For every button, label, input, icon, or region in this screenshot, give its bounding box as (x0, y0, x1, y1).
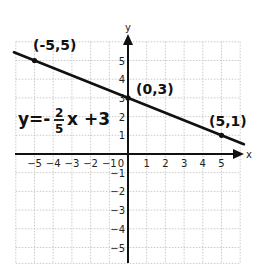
coordinate-graph: x y −5−4−3−2−1012345 54321−1−2−3−4−5 (-5… (0, 0, 260, 276)
equation-denominator: 5 (55, 122, 63, 136)
data-point (125, 95, 130, 100)
y-tick-label: 2 (119, 112, 125, 123)
point-label-c: (5,1) (209, 113, 247, 129)
x-axis-arrow-icon (233, 149, 244, 159)
y-tick-label: 4 (119, 74, 125, 85)
x-tick-label: 4 (200, 158, 206, 169)
point-label-b: (0,3) (136, 81, 174, 97)
x-tick-label: 3 (181, 158, 187, 169)
x-axis-label: x (246, 149, 252, 160)
y-tick-label: −2 (110, 186, 125, 197)
point-label-a: (-5,5) (33, 37, 76, 53)
y-tick-label: 5 (119, 56, 125, 67)
x-tick-label: −4 (46, 158, 61, 169)
equation-rhs: x +3 (67, 109, 110, 129)
x-tick-label: −5 (27, 158, 42, 169)
y-tick-label: −1 (110, 168, 125, 179)
y-tick-label: −4 (110, 224, 125, 235)
data-point (219, 133, 224, 138)
y-axis-label: y (125, 22, 131, 33)
x-tick-label: 1 (144, 158, 150, 169)
equation-lhs: y=- (18, 109, 50, 129)
x-tick-label: −2 (83, 158, 98, 169)
x-tick-label: 2 (162, 158, 168, 169)
y-tick-label: −5 (110, 243, 125, 254)
equation: y=- 2 5 x +3 (18, 106, 110, 136)
x-tick-label: 5 (218, 158, 224, 169)
x-tick-label: −3 (65, 158, 80, 169)
axes: x y (15, 22, 252, 263)
y-tick-label: 1 (119, 130, 125, 141)
y-tick-label: −3 (110, 205, 125, 216)
x-tick-labels: −5−4−3−2−1012345 (27, 158, 225, 169)
equation-numerator: 2 (55, 106, 63, 120)
data-point (32, 58, 37, 63)
y-axis-arrow-icon (123, 34, 133, 45)
